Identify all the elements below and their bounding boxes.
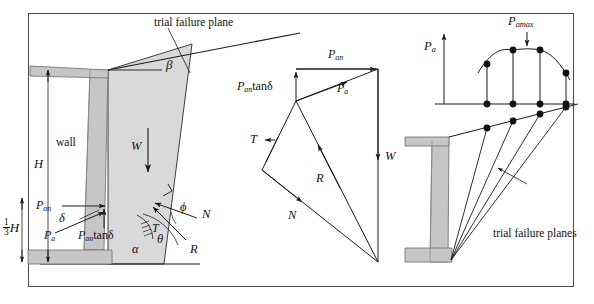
Pan-tan-delta-label-wall: Pantanδ [78,229,114,243]
alpha-label: α [132,243,139,256]
N-label-wall: N [202,208,210,221]
R-label-wall: R [190,243,198,256]
third-H-label: 1 3 H [3,218,19,238]
figure-artwork [0,0,594,304]
Pa-label-polygon: Pa [337,82,348,96]
R-label-polygon: R [316,172,324,185]
H-label: H [34,158,43,171]
trial-failure-plane-label: trial failure plane [154,17,233,29]
delta-label-wall: δ [59,212,65,225]
wall-label: wall [56,137,76,149]
N-label-polygon: N [288,209,296,222]
pa-axis-label: Pa [424,40,436,54]
right-retaining-wall [405,137,452,262]
trial-failure-planes-label: trial failure planes [493,228,577,240]
pa-plot-curve [478,49,570,80]
figure-root: trial failure plane wall β W H 1 3 H Pan… [0,0,594,304]
phi-arc [171,212,176,224]
T-label-polygon: T [250,133,257,146]
Pamax-label: Pamax [508,15,534,29]
Pan-tan-delta-label-polygon: Pantanδ [237,80,273,94]
weight-label: W [131,140,141,153]
pa-plot-points [484,47,570,108]
W-label-polygon: W [385,150,395,163]
phi-label-wall: ϕ [180,201,186,214]
one-third-fraction: 1 3 [3,218,10,238]
theta-label: θ [157,233,163,246]
Pan-label-wall: Pan [36,199,51,213]
force-polygon-art [262,69,378,262]
pa-plot-axes [435,34,575,104]
Pa-label-wall: Pa [44,229,55,243]
beta-label: β [166,58,172,71]
Pan-label-polygon: Pan [328,48,343,62]
soil-wedge [108,44,192,264]
ground-slope-line [108,33,300,70]
